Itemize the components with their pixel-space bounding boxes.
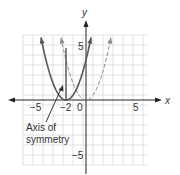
y-tick-label: 5	[78, 41, 84, 52]
y-axis: y	[81, 7, 89, 174]
x-tick-label: 5	[133, 102, 139, 113]
annotation-label-line1: Axis of	[26, 122, 56, 133]
x-tick-label: 0	[77, 102, 83, 113]
y-tick-label: −5	[72, 150, 84, 161]
annotation-label-line2: symmetry	[26, 134, 69, 145]
x-tick-label: −2	[60, 102, 72, 113]
x-tick-label: −5	[30, 102, 42, 113]
parabola-graph: x y −5 −2 0 5 5 −5 Axis of symmetry	[0, 0, 180, 175]
x-axis-label: x	[164, 95, 171, 106]
curve-arrowheads	[40, 38, 113, 44]
y-axis-label: y	[81, 7, 88, 18]
